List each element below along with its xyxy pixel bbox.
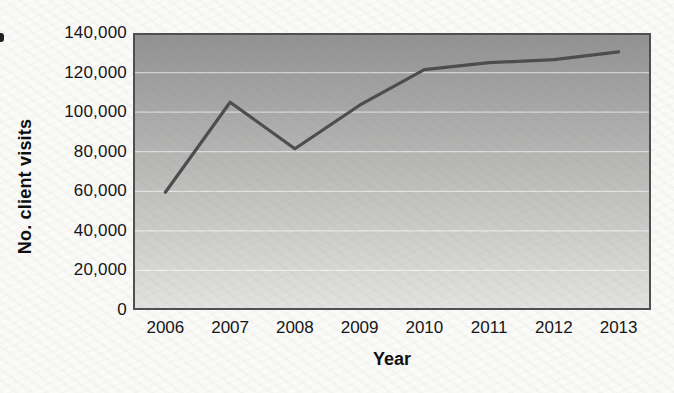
y-tick-label: 20,000: [32, 261, 127, 279]
x-tick-label: 2008: [263, 318, 327, 338]
y-tick-label: 100,000: [32, 103, 127, 121]
x-tick-label: 2013: [587, 318, 651, 338]
y-tick-label: 0: [32, 301, 127, 319]
x-tick-label: 2010: [392, 318, 456, 338]
x-tick-label: 2007: [198, 318, 262, 338]
y-tick-label: 60,000: [32, 182, 127, 200]
x-tick-label: 2006: [133, 318, 197, 338]
y-tick-label: 140,000: [32, 24, 127, 42]
y-tick-label: 120,000: [32, 64, 127, 82]
line-chart-svg: [133, 33, 651, 310]
plot-area: [133, 33, 651, 310]
x-tick-label: 2011: [457, 318, 521, 338]
scan-artifact-speck: [0, 33, 4, 42]
y-tick-label: 80,000: [32, 143, 127, 161]
y-tick-label: 40,000: [32, 222, 127, 240]
x-tick-label: 2009: [328, 318, 392, 338]
x-tick-label: 2012: [522, 318, 586, 338]
x-axis-title: Year: [133, 349, 651, 370]
plot-border: [134, 34, 650, 309]
scanned-figure-page: No. client visits 020,00040,00060,00080,…: [0, 0, 674, 393]
